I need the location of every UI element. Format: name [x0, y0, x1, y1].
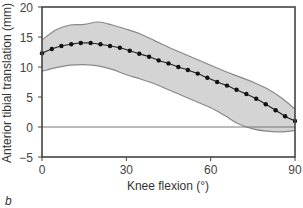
data-point [215, 80, 219, 84]
x-axis-ticks: 0306090 [39, 157, 302, 177]
confidence-band [42, 22, 295, 132]
y-tick-label: 15 [20, 31, 34, 45]
y-axis-ticks: −505101520 [19, 1, 42, 165]
data-point [166, 61, 170, 65]
data-point [283, 114, 287, 118]
data-point [196, 71, 200, 75]
y-tick-label: 0 [26, 121, 33, 135]
x-tick-label: 90 [288, 163, 302, 177]
data-point [69, 42, 73, 46]
data-point [108, 44, 112, 48]
data-point [50, 47, 54, 51]
data-point [205, 76, 209, 80]
data-point [59, 44, 63, 48]
y-axis-label: Anterior tibial translation (mm) [0, 3, 14, 163]
data-point [137, 52, 141, 56]
band-fill [42, 22, 295, 132]
x-tick-label: 60 [204, 163, 218, 177]
data-point [176, 65, 180, 69]
y-tick-label: 10 [20, 61, 34, 75]
x-tick-label: 0 [39, 163, 46, 177]
data-point [147, 55, 151, 59]
data-point [128, 49, 132, 53]
data-point [186, 68, 190, 72]
data-point [234, 88, 238, 92]
data-point [264, 102, 268, 106]
y-tick-label: −5 [19, 151, 33, 165]
panel-label: b [5, 194, 12, 208]
y-tick-label: 20 [20, 1, 34, 15]
x-axis-label: Knee flexion (°) [127, 179, 209, 193]
data-point [254, 97, 258, 101]
data-point [79, 41, 83, 45]
data-point [244, 92, 248, 96]
x-tick-label: 30 [120, 163, 134, 177]
line-chart: −505101520 0306090 Knee flexion (°) Ante… [0, 0, 303, 208]
data-point [88, 41, 92, 45]
data-point [156, 58, 160, 62]
y-tick-label: 5 [26, 91, 33, 105]
data-point [118, 46, 122, 50]
data-point [225, 83, 229, 87]
data-point [98, 42, 102, 46]
data-point [273, 108, 277, 112]
